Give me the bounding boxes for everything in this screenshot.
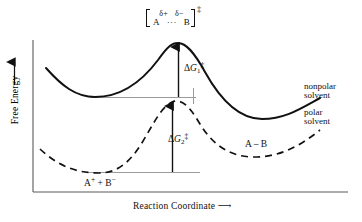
double-dagger-icon-1: ‡ — [200, 61, 204, 70]
products-label: A – B — [245, 140, 267, 150]
transition-state-bracket: δ+δ− A···B ‡ — [146, 9, 196, 28]
reactant-a: A — [84, 178, 91, 188]
g-symbol-1: G — [190, 63, 197, 73]
reaction-energy-diagram: δ+δ− A···B ‡ ΔG1‡ ΔG2‡ nonpolar solvent … — [0, 0, 362, 222]
reactants-label: A+ + B− — [84, 176, 116, 189]
nonpolar-solvent-line2: solvent — [304, 90, 330, 100]
y-axis-label: Free Energy — [10, 55, 20, 145]
curve-nonpolar-solvent — [46, 43, 320, 119]
reactant-joiner: + — [95, 178, 105, 188]
transition-state-label: δ+δ− A···B ‡ — [146, 9, 196, 28]
x-axis-arrow-icon: ⟶ — [218, 201, 231, 211]
reactant-b-charge: − — [112, 175, 116, 184]
polar-solvent-line2: solvent — [304, 116, 330, 126]
atom-a: A — [153, 17, 160, 27]
atom-b: B — [184, 17, 190, 27]
delta-g-1-label: ΔG1‡ — [184, 62, 204, 75]
g-symbol-2: G — [174, 134, 181, 144]
polar-solvent-label: polar solvent — [304, 108, 330, 127]
double-dagger-icon: ‡ — [197, 6, 201, 14]
x-axis-label: Reaction Coordinate ⟶ — [133, 202, 230, 212]
x-axis-label-text: Reaction Coordinate — [133, 201, 215, 211]
nonpolar-solvent-label: nonpolar solvent — [304, 82, 336, 101]
delta-g-2-label: ΔG2‡ — [168, 133, 188, 146]
transition-state-atoms: A···B — [153, 18, 190, 27]
double-dagger-icon-2: ‡ — [184, 132, 188, 141]
bond-dots: ··· — [167, 17, 177, 27]
